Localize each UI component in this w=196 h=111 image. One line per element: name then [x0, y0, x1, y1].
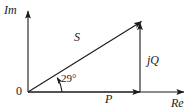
apparent-power-vector	[28, 22, 142, 93]
real-axis-label: Re	[171, 97, 184, 109]
apparent-power-label: S	[74, 31, 80, 43]
imaginary-axis-label: Im	[4, 4, 17, 16]
reactive-power-label: jQ	[147, 54, 159, 66]
real-power-label: P	[105, 93, 112, 105]
origin-label: 0	[16, 85, 22, 97]
phasor-diagram: Im Re 0 S jQ P 29°	[0, 0, 196, 111]
diagram-canvas	[0, 0, 196, 111]
angle-label: 29°	[61, 73, 76, 84]
